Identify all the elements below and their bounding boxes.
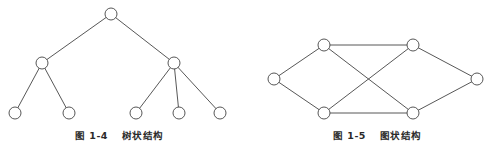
diagram-canvas — [0, 0, 491, 149]
node-circle — [36, 57, 48, 69]
node-circle — [407, 107, 419, 119]
tree-figure-caption: 图 1-4树状结构 — [75, 128, 164, 142]
node-circle — [318, 39, 330, 51]
node-circle — [168, 57, 180, 69]
node-circle — [173, 107, 185, 119]
node-circle — [9, 107, 21, 119]
edge — [274, 79, 324, 113]
figure-number: 图 1-5 — [333, 128, 366, 142]
node-circle — [471, 73, 483, 85]
node-circle — [63, 107, 75, 119]
edge — [111, 14, 174, 63]
edge — [42, 63, 69, 113]
edge — [174, 63, 179, 113]
node-circle — [268, 73, 280, 85]
figure-title: 树状结构 — [122, 128, 164, 142]
edge — [136, 63, 174, 113]
figure-title: 图状结构 — [380, 128, 422, 142]
graph-structure-diagram — [268, 39, 483, 119]
node-circle — [318, 107, 330, 119]
node-circle — [130, 107, 142, 119]
node-circle — [407, 39, 419, 51]
node-circle — [214, 107, 226, 119]
edge — [413, 79, 477, 113]
edge — [274, 45, 324, 79]
node-circle — [105, 8, 117, 20]
graph-figure-caption: 图 1-5图状结构 — [333, 128, 422, 142]
edge — [15, 63, 42, 113]
edge — [413, 45, 477, 79]
figure-number: 图 1-4 — [75, 128, 108, 142]
edge — [42, 14, 111, 63]
tree-structure-diagram — [9, 8, 226, 119]
edge — [174, 63, 220, 113]
